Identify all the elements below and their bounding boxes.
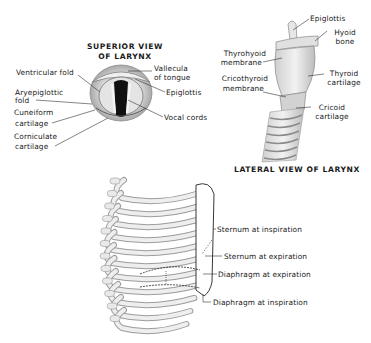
label-corniculate-line2: cartilage bbox=[15, 142, 48, 151]
label-cuneiform-line1: Cuneiform bbox=[14, 108, 53, 117]
sternum-inspiration-outline bbox=[196, 184, 214, 296]
rib-highlight bbox=[116, 180, 196, 201]
vertebra bbox=[100, 241, 110, 247]
vertebra bbox=[105, 291, 115, 297]
thyroid-cartilage-shape bbox=[275, 46, 315, 96]
lateral-larynx-illustration bbox=[262, 21, 318, 162]
vertebra bbox=[105, 203, 115, 209]
label-hyoid-line1: Hyoid bbox=[327, 28, 363, 37]
rib-cage-illustration bbox=[100, 178, 214, 331]
label-corniculate-line1: Corniculate bbox=[14, 132, 57, 141]
vertebra bbox=[102, 216, 112, 222]
label-epiglottis-superior: Epiglottis bbox=[166, 88, 201, 97]
epiglottis-shape bbox=[288, 21, 297, 40]
glottis-opening bbox=[114, 80, 128, 117]
superior-view-title-line2: OF LARYNX bbox=[78, 52, 172, 62]
vertebra bbox=[101, 228, 111, 234]
vertebra bbox=[100, 253, 110, 259]
label-vocal-cords: Vocal cords bbox=[164, 113, 207, 122]
label-hyoid-line2: bone bbox=[327, 37, 363, 46]
label-aryepiglottic-fold-line2: fold bbox=[15, 96, 29, 105]
ribs bbox=[106, 180, 198, 331]
label-thyroid-line1: Thyroid bbox=[322, 69, 366, 78]
vertebra bbox=[110, 316, 120, 322]
label-thyrohyoid-line2: membrane bbox=[214, 58, 262, 67]
vertebra bbox=[102, 278, 112, 284]
label-vallecula-line2: of tongue bbox=[154, 73, 190, 82]
vertebra bbox=[107, 191, 117, 197]
superior-view-title: SUPERIOR VIEW OF LARYNX bbox=[78, 42, 172, 61]
label-vallecula-line1: Vallecula bbox=[154, 64, 188, 73]
label-cuneiform-line2: cartilage bbox=[15, 119, 48, 128]
label-ventricular-fold: Ventricular fold bbox=[16, 68, 74, 77]
label-cricothyroid-line2: membrane bbox=[210, 84, 264, 93]
label-diaphragm-expiration: Diaphragm at expiration bbox=[218, 270, 311, 279]
label-thyrohyoid-line1: Thyrohyoid bbox=[214, 49, 266, 58]
label-sternum-expiration: Sternum at expiration bbox=[224, 252, 307, 261]
label-thyroid-line2: cartilage bbox=[322, 78, 366, 87]
superior-view-title-line1: SUPERIOR VIEW bbox=[78, 42, 172, 52]
label-cricoid-line2: cartilage bbox=[310, 112, 354, 121]
superior-larynx-illustration bbox=[90, 65, 152, 121]
label-epiglottis-lateral: Epiglottis bbox=[310, 14, 345, 23]
label-cricoid-line1: Cricoid bbox=[310, 103, 354, 112]
label-cricothyroid-line1: Cricothyroid bbox=[210, 74, 268, 83]
vertebra bbox=[107, 303, 117, 309]
lateral-view-title: LATERAL VIEW OF LARYNX bbox=[234, 165, 360, 175]
vertebra bbox=[110, 178, 120, 184]
vertebra bbox=[101, 266, 111, 272]
label-diaphragm-inspiration: Diaphragm at inspiration bbox=[213, 298, 308, 307]
label-sternum-inspiration: Sternum at inspiration bbox=[217, 225, 302, 234]
